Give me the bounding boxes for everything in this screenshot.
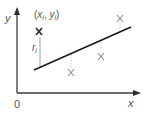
origin-label: 0 — [14, 99, 20, 110]
data-point-p3-icon — [98, 53, 104, 60]
y-axis-label: y — [5, 13, 11, 24]
point-coordinate-label: (xi, yi) — [34, 10, 59, 21]
x-axis-label: x — [128, 98, 134, 109]
regression-line — [34, 27, 131, 70]
y-axis-arrow-icon — [14, 7, 20, 15]
x-axis-arrow-icon — [133, 90, 141, 96]
residual-subscript: i — [35, 47, 37, 54]
data-point-p4-icon — [117, 15, 123, 22]
y-axis — [14, 7, 20, 93]
x-axis — [17, 90, 141, 96]
data-point-highlighted-icon — [36, 28, 42, 35]
paren-close: ) — [56, 9, 59, 20]
data-point-p2-icon — [68, 69, 74, 76]
residual-label: ri — [32, 43, 37, 54]
regression-diagram — [0, 0, 149, 115]
